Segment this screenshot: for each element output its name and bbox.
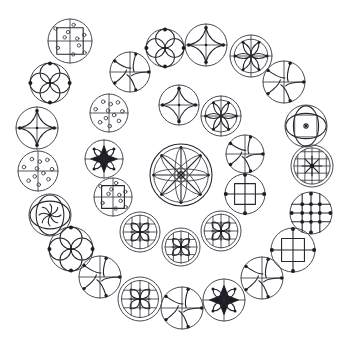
starburst-node bbox=[112, 167, 115, 170]
rosette-petal-node bbox=[242, 41, 245, 44]
floret-hub bbox=[179, 245, 182, 248]
glyph-pinwheel bbox=[161, 287, 203, 329]
squarenodes-node bbox=[262, 192, 266, 196]
swirl-centre bbox=[36, 127, 39, 130]
quatrefoil-node bbox=[91, 247, 95, 251]
quatrefoil-node bbox=[48, 61, 52, 65]
quatrefoil-node bbox=[182, 46, 186, 50]
starburst-node bbox=[93, 167, 96, 170]
glyph-arrangement bbox=[0, 0, 345, 343]
quatrefoil-node bbox=[144, 46, 148, 50]
pinwheel-tip-node bbox=[249, 135, 252, 138]
gridnodes-node bbox=[309, 202, 313, 206]
quatrefoil-node bbox=[69, 269, 73, 273]
starburst-node bbox=[212, 288, 215, 291]
gridnodes-node bbox=[318, 220, 322, 224]
pinwheel-tip-node bbox=[113, 81, 116, 84]
floret-hub bbox=[219, 229, 222, 232]
pinwheel-tip-node bbox=[134, 52, 137, 55]
rosette-petal-node bbox=[257, 41, 260, 44]
pinwheel-tip-node bbox=[302, 80, 305, 83]
quatrefoil-centre bbox=[49, 82, 52, 85]
squarenodes-node bbox=[224, 192, 228, 196]
floret-hub bbox=[138, 230, 141, 233]
quatrefoil-node bbox=[163, 27, 167, 31]
gridnodes-node bbox=[318, 211, 322, 215]
swirl-arm-node bbox=[18, 126, 22, 130]
rosette-petal-node bbox=[227, 101, 230, 104]
quatrefoil-node bbox=[48, 101, 52, 105]
glyph-swirl-cross bbox=[16, 107, 58, 149]
swirl-arm-node bbox=[204, 60, 208, 64]
pinwheel-tip-node bbox=[266, 258, 269, 261]
pinwheel-tip-node bbox=[280, 276, 283, 279]
pinwheel-tip-node bbox=[266, 295, 269, 298]
pinwheel-tip-node bbox=[288, 62, 291, 65]
pinwheel-tip-node bbox=[249, 169, 252, 172]
glyph-dot-square bbox=[94, 178, 132, 216]
pinwheel-tip-node bbox=[147, 70, 150, 73]
pinwheel-tip-node bbox=[82, 287, 85, 290]
glyph-pinwheel bbox=[226, 135, 265, 173]
swirl-arm-node bbox=[161, 103, 165, 107]
starburst-node bbox=[112, 148, 115, 151]
rosette-petal-node bbox=[265, 55, 268, 58]
swirl-arm-node bbox=[204, 26, 208, 30]
gridnodes-edge-node bbox=[309, 192, 313, 196]
pinwheel-tip-node bbox=[104, 294, 107, 297]
glyph-starburst bbox=[85, 140, 123, 178]
starburst-node bbox=[212, 309, 215, 312]
glyph-grid-star bbox=[291, 145, 333, 187]
squarenodes-node bbox=[312, 248, 316, 252]
pinwheel-tip-node bbox=[104, 257, 107, 260]
quatrefoil-node bbox=[69, 225, 73, 229]
glyph-dense-floret bbox=[118, 277, 162, 321]
gridstar-hub bbox=[310, 164, 314, 168]
glyph-dense-floret bbox=[162, 228, 200, 266]
starburst-node bbox=[233, 309, 236, 312]
swirl-arm-node bbox=[187, 43, 191, 47]
pinwheel-tip-node bbox=[113, 59, 116, 62]
glyph-pinwheel bbox=[110, 52, 151, 92]
pinwheel-tip-node bbox=[118, 275, 121, 278]
rosette-petal-node bbox=[257, 68, 260, 71]
glyph-dot-square bbox=[48, 19, 92, 63]
quatrefoil-centre bbox=[164, 47, 167, 50]
glyph-grid-nodes bbox=[290, 192, 332, 234]
swirl-centre bbox=[178, 104, 181, 107]
glyph-rosette bbox=[230, 35, 272, 77]
starburst-node bbox=[93, 148, 96, 151]
pinwheel-tip-node bbox=[164, 318, 167, 321]
pinwheel-tip-node bbox=[288, 99, 291, 102]
pinwheel-tip-node bbox=[186, 325, 189, 328]
gridnodes-node bbox=[300, 202, 304, 206]
pinwheel-tip-node bbox=[200, 306, 203, 309]
swirl-centre bbox=[205, 44, 208, 47]
rosette-petal-node bbox=[234, 55, 237, 58]
glyph-rosette bbox=[201, 96, 241, 136]
glyph-swirl-cross bbox=[185, 24, 227, 66]
rosette-petal-node bbox=[204, 115, 207, 118]
quatrefoil-centre bbox=[70, 248, 73, 251]
starburst-node bbox=[233, 288, 236, 291]
gridnodes-edge-node bbox=[309, 230, 313, 234]
quatrefoil-node bbox=[163, 65, 167, 69]
pinwheel-tip-node bbox=[266, 92, 269, 95]
swirl-arm-node bbox=[177, 87, 181, 91]
quatrefoil-node bbox=[28, 81, 32, 85]
glyph-pinwheel bbox=[79, 256, 121, 298]
quatrefoil-node bbox=[47, 247, 51, 251]
rosette-petal-node bbox=[227, 128, 230, 131]
quatrefoil-node bbox=[68, 81, 72, 85]
pinwheel-tip-node bbox=[261, 152, 264, 155]
pinwheel-tip-node bbox=[186, 288, 189, 291]
squarenodes-node bbox=[291, 269, 295, 273]
gridnodes-node bbox=[309, 211, 313, 215]
rosette-petal-node bbox=[242, 68, 245, 71]
glyph-pinwheel bbox=[263, 61, 305, 103]
gridnodes-node bbox=[318, 202, 322, 206]
floret-hub bbox=[138, 297, 141, 300]
glyph-starburst bbox=[203, 279, 245, 321]
glyph-dense-floret bbox=[120, 212, 160, 252]
squarenodes-node bbox=[243, 211, 247, 215]
